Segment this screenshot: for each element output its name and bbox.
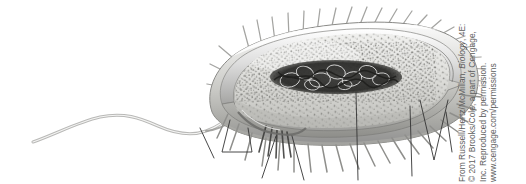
credit-line-3: Inc. Reproduced by permission. xyxy=(478,63,488,182)
source-credit-block: From Russell/Hertz/McMillan, Biology, 4E… xyxy=(455,0,523,184)
flagellum xyxy=(33,110,238,142)
credit-line-1-prefix: From Russell/Hertz/McMillan, xyxy=(457,69,467,182)
credit-line-2: © 2017 Brooks/Cole, a part of Cengage, xyxy=(467,31,477,182)
credit-line-1: From Russell/Hertz/McMillan, Biology, 4E… xyxy=(457,24,467,182)
nucleoid-dna xyxy=(270,60,402,94)
bacterial-cell-illustration xyxy=(0,0,526,184)
credit-line-1-suffix: , 4E: xyxy=(457,24,467,41)
credit-line-1-title: Biology xyxy=(457,41,467,69)
figure-root: From Russell/Hertz/McMillan, Biology, 4E… xyxy=(0,0,526,184)
credit-line-4-permissions-url[interactable]: www.cengage.com/permissions xyxy=(488,63,498,182)
